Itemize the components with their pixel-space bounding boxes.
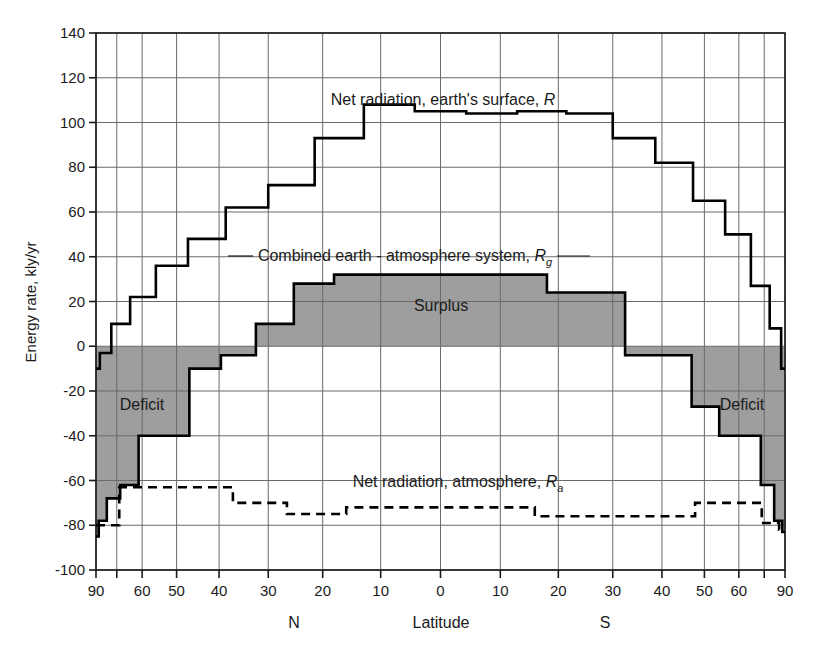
- y-axis-tick-label: -80: [63, 516, 85, 533]
- y-axis-tick-label: -40: [63, 427, 85, 444]
- y-axis-tick-label: 40: [68, 248, 85, 265]
- series-label-r-prefix: Net radiation, earth's surface,: [331, 91, 544, 108]
- region-label-deficit-right: Deficit: [720, 396, 765, 413]
- x-axis-tick-label: 60: [134, 582, 151, 599]
- series-label-ra-prefix: Net radiation, atmosphere,: [353, 473, 546, 490]
- hemisphere-label-north: N: [288, 614, 300, 631]
- x-axis-tick-label: 10: [372, 582, 389, 599]
- x-axis-tick-label: 30: [260, 582, 277, 599]
- x-axis-tick-label: 40: [654, 582, 671, 599]
- x-axis-tick-label: 50: [696, 582, 713, 599]
- series-label-net-radiation-surface: Net radiation, earth's surface, R: [331, 91, 556, 108]
- y-axis-tick-label: 140: [60, 24, 85, 41]
- x-axis-tick-label: 20: [550, 582, 567, 599]
- y-axis-tick-label: -100: [55, 561, 85, 578]
- chart-container: 140120100806040200-20-40-60-80-100 90605…: [0, 0, 824, 656]
- x-axis-tick-label: 60: [731, 582, 748, 599]
- y-axis-tick-label: 100: [60, 114, 85, 131]
- y-axis-tick-label: 80: [68, 158, 85, 175]
- x-axis-tick-label: 10: [492, 582, 509, 599]
- x-axis-tick-label: 20: [314, 582, 331, 599]
- x-axis-tick-label: 90: [88, 582, 105, 599]
- y-axis-tick-label: -60: [63, 472, 85, 489]
- x-axis-tick-label: 0: [436, 582, 444, 599]
- y-axis-tick-label: 60: [68, 203, 85, 220]
- hemisphere-label-south: S: [600, 614, 611, 631]
- series-label-ra-subscript: a: [557, 482, 563, 494]
- x-axis-tick-label: 90: [777, 582, 794, 599]
- x-axis-tick-label: 30: [604, 582, 621, 599]
- energy-balance-chart: 140120100806040200-20-40-60-80-100 90605…: [0, 0, 824, 656]
- x-axis-tick-label: 40: [211, 582, 228, 599]
- y-axis-tick-label: 120: [60, 69, 85, 86]
- series-label-rg-subscript: g: [546, 256, 553, 268]
- series-label-rg-prefix: Combined earth - atmosphere system,: [258, 247, 535, 264]
- y-axis-tick-label: -20: [63, 382, 85, 399]
- series-label-ra-symbol: R: [546, 473, 558, 490]
- series-label-r-symbol: R: [544, 91, 556, 108]
- region-label-surplus: Surplus: [414, 297, 468, 314]
- y-axis-tick-label: 0: [77, 337, 85, 354]
- x-axis-tick-label: 50: [168, 582, 185, 599]
- x-axis-title: Latitude: [413, 614, 470, 631]
- series-label-rg-symbol: R: [534, 247, 546, 264]
- region-label-deficit-left: Deficit: [120, 396, 165, 413]
- y-axis-title: Energy rate, kly/yr: [22, 242, 39, 363]
- y-axis-tick-label: 20: [68, 293, 85, 310]
